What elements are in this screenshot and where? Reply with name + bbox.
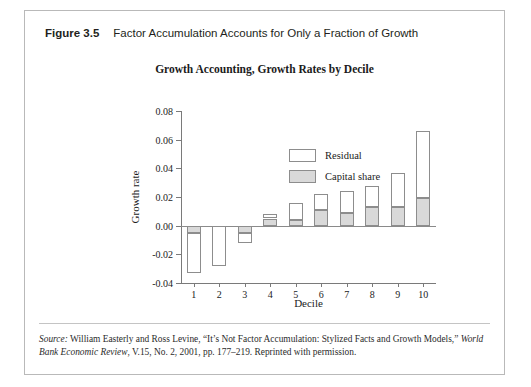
y-tick (176, 226, 181, 227)
y-tick-label: 0.08 (156, 106, 174, 117)
x-tick-label: 6 (319, 289, 324, 300)
y-tick-label: 0.04 (156, 163, 174, 174)
legend-item: Residual (289, 147, 380, 164)
y-axis-line (181, 111, 182, 283)
source-prefix: Source: (39, 334, 68, 344)
legend-item: Capital share (289, 168, 380, 185)
bar-segment-residual (212, 226, 226, 266)
y-tick-label: 0.06 (156, 134, 174, 145)
x-tick (194, 283, 195, 287)
source-text-2: , V.15, No. 2, 2001, pp. 177–219. Reprin… (128, 347, 357, 357)
bar-segment-capital-share (263, 219, 277, 226)
chart-legend: ResidualCapital share (289, 147, 380, 189)
y-tick (176, 140, 181, 141)
bar-segment-capital-share (340, 213, 354, 226)
x-tick (321, 283, 322, 287)
bar-segment-capital-share (416, 198, 430, 225)
y-tick-label: 0.02 (156, 192, 174, 203)
bar-segment-residual (238, 233, 252, 243)
bar-segment-residual (263, 214, 277, 218)
bar-segment-residual (416, 131, 430, 198)
bar-segment-capital-share (238, 226, 252, 233)
y-tick-label: -0.04 (152, 278, 173, 289)
bar-segment-residual (187, 233, 201, 273)
chart-axes: 0.080.060.040.020.00-0.02-0.04 123456789… (181, 111, 436, 283)
figure-number: Figure 3.5 (45, 27, 99, 39)
x-tick-label: 5 (293, 289, 298, 300)
y-tick (176, 111, 181, 112)
x-tick (245, 283, 246, 287)
figure-caption: Figure 3.5Factor Accumulation Accounts f… (45, 27, 418, 39)
bar-segment-residual (391, 173, 405, 207)
x-tick-label: 3 (242, 289, 247, 300)
source-text-1: William Easterly and Ross Levine, “It’s … (68, 334, 461, 344)
y-tick (176, 283, 181, 284)
x-tick-label: 7 (344, 289, 349, 300)
x-tick (347, 283, 348, 287)
bar-segment-residual (314, 194, 328, 210)
bar-segment-capital-share (289, 220, 303, 226)
x-tick-label: 4 (268, 289, 273, 300)
figure-title: Factor Accumulation Accounts for Only a … (113, 27, 418, 39)
x-tick (423, 283, 424, 287)
bar-segment-residual (289, 203, 303, 220)
bar-segment-capital-share (187, 226, 201, 233)
source-note: Source: William Easterly and Ross Levine… (39, 333, 490, 359)
y-tick-label: -0.02 (152, 249, 173, 260)
bar-segment-capital-share (314, 210, 328, 226)
bar-segment-capital-share (391, 207, 405, 226)
y-tick (176, 254, 181, 255)
y-tick-label: 0.00 (156, 220, 174, 231)
x-tick-label: 10 (418, 289, 428, 300)
y-tick (176, 197, 181, 198)
x-tick-label: 1 (191, 289, 196, 300)
x-tick (270, 283, 271, 287)
figure-card: Figure 3.5Factor Accumulation Accounts f… (24, 10, 505, 375)
legend-swatch (289, 149, 316, 162)
x-tick (219, 283, 220, 287)
chart-plot-area: Growth rate Decile 0.080.060.040.020.00-… (117, 83, 462, 318)
y-tick (176, 168, 181, 169)
legend-label: Residual (325, 150, 362, 161)
x-tick-label: 9 (395, 289, 400, 300)
x-tick (398, 283, 399, 287)
x-tick (296, 283, 297, 287)
chart-title: Growth Accounting, Growth Rates by Decil… (25, 63, 504, 75)
legend-label: Capital share (325, 171, 380, 182)
source-divider (39, 323, 490, 324)
bar-segment-residual (340, 191, 354, 213)
y-axis-title: Growth rate (129, 171, 141, 224)
bar-segment-capital-share (365, 207, 379, 226)
x-tick (372, 283, 373, 287)
x-tick-label: 8 (370, 289, 375, 300)
legend-swatch (289, 170, 316, 183)
x-tick-label: 2 (217, 289, 222, 300)
